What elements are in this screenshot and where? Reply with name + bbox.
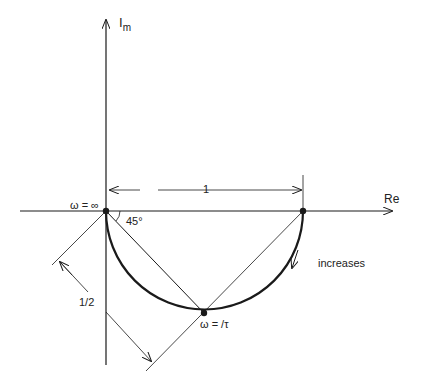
- omega-inf-label: ω = ∞: [70, 199, 99, 211]
- point-omega-inf: [103, 208, 109, 214]
- angle-label: 45°: [126, 215, 143, 227]
- real-axis-label: Re: [384, 192, 399, 206]
- nyquist-diagram: Im Re 1 ω = ∞ 45° increases 1/2 ω = /τ: [0, 0, 427, 386]
- point-one: [300, 208, 306, 214]
- point-omega-tau: [201, 310, 207, 316]
- omega-tau-label: ω = /τ: [200, 318, 229, 330]
- imag-axis-label: Im: [119, 15, 131, 33]
- dim-half-label: 1/2: [79, 296, 94, 308]
- dim-one-label: 1: [203, 183, 209, 195]
- increases-label: increases: [318, 257, 365, 269]
